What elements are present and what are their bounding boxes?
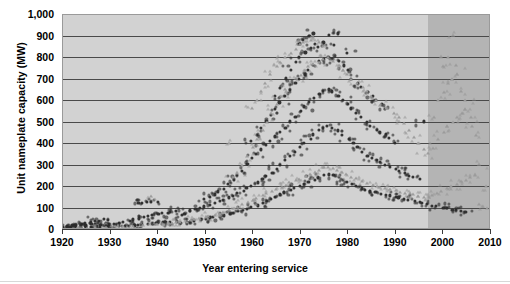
data-point bbox=[214, 219, 217, 222]
data-point bbox=[447, 35, 451, 38]
data-point bbox=[197, 209, 200, 212]
data-point bbox=[298, 111, 301, 114]
data-point bbox=[271, 95, 275, 98]
x-axis-tick-label: 1970 bbox=[288, 236, 311, 248]
data-point bbox=[367, 159, 370, 162]
data-point bbox=[463, 108, 467, 111]
data-point bbox=[391, 105, 395, 108]
data-point bbox=[328, 167, 332, 170]
gridline bbox=[62, 79, 490, 80]
data-point bbox=[371, 153, 374, 156]
data-point bbox=[301, 80, 305, 83]
data-point bbox=[342, 64, 345, 67]
data-point bbox=[309, 59, 313, 62]
data-point bbox=[385, 106, 389, 109]
data-point bbox=[333, 43, 336, 46]
data-point bbox=[309, 63, 313, 66]
data-point bbox=[295, 43, 299, 46]
data-point bbox=[416, 191, 420, 194]
x-axis-tick bbox=[395, 229, 396, 234]
data-point bbox=[309, 174, 313, 177]
y-axis-tick-label: 400 bbox=[36, 137, 54, 149]
data-point bbox=[464, 178, 468, 181]
data-point bbox=[286, 96, 290, 99]
data-point bbox=[293, 153, 296, 156]
data-point bbox=[445, 124, 449, 127]
data-point bbox=[188, 210, 191, 213]
data-point bbox=[465, 122, 469, 125]
data-point bbox=[317, 123, 320, 126]
data-point bbox=[340, 99, 343, 102]
data-point bbox=[111, 224, 115, 227]
data-point bbox=[475, 159, 479, 162]
data-point bbox=[223, 214, 226, 217]
data-point bbox=[343, 72, 347, 75]
data-point bbox=[388, 197, 391, 200]
data-point bbox=[275, 105, 278, 108]
data-point bbox=[349, 101, 352, 104]
data-point bbox=[378, 108, 381, 111]
data-point bbox=[439, 189, 443, 192]
data-point bbox=[211, 206, 214, 209]
data-point bbox=[231, 176, 235, 179]
data-point bbox=[321, 58, 325, 61]
data-point bbox=[432, 134, 436, 137]
x-axis-tick-label: 1960 bbox=[241, 236, 264, 248]
x-axis-tick bbox=[490, 229, 491, 234]
data-point bbox=[338, 65, 342, 68]
y-axis-tick-label: 0 bbox=[48, 223, 54, 235]
data-point bbox=[432, 192, 436, 195]
data-point bbox=[255, 143, 259, 146]
data-point bbox=[262, 124, 266, 127]
data-point bbox=[407, 195, 411, 198]
data-point bbox=[311, 109, 314, 112]
data-point bbox=[307, 101, 310, 104]
data-point bbox=[299, 145, 302, 148]
data-point bbox=[287, 102, 290, 105]
data-point bbox=[249, 185, 252, 188]
data-point bbox=[434, 146, 438, 149]
data-point bbox=[308, 69, 312, 72]
data-point bbox=[279, 193, 282, 196]
data-point bbox=[349, 68, 352, 71]
data-point bbox=[240, 197, 244, 200]
x-axis-tick bbox=[157, 229, 158, 234]
data-point bbox=[427, 195, 431, 198]
data-point bbox=[203, 211, 207, 214]
data-point bbox=[459, 87, 463, 90]
data-point bbox=[275, 102, 279, 105]
data-point bbox=[259, 92, 263, 95]
data-point bbox=[280, 186, 284, 189]
data-point bbox=[352, 148, 355, 151]
data-point bbox=[240, 202, 244, 205]
data-point bbox=[104, 222, 108, 225]
data-point bbox=[392, 133, 395, 136]
data-point bbox=[446, 55, 450, 58]
data-point bbox=[290, 68, 293, 71]
data-point bbox=[340, 133, 343, 136]
data-point bbox=[224, 174, 228, 177]
data-point bbox=[468, 108, 472, 111]
plot-area bbox=[62, 14, 490, 229]
data-point bbox=[170, 210, 173, 213]
data-point bbox=[477, 135, 481, 138]
data-point bbox=[316, 49, 319, 52]
data-point bbox=[438, 183, 442, 186]
data-point bbox=[288, 120, 291, 123]
data-point bbox=[257, 181, 260, 184]
data-point bbox=[263, 70, 267, 73]
data-point bbox=[485, 206, 489, 209]
data-point bbox=[427, 113, 431, 116]
data-point bbox=[281, 83, 285, 86]
data-point bbox=[267, 167, 270, 170]
x-axis-tick bbox=[347, 229, 348, 234]
data-point bbox=[379, 192, 382, 195]
data-point bbox=[313, 100, 316, 103]
data-point bbox=[402, 122, 406, 125]
data-point bbox=[355, 81, 359, 84]
data-point bbox=[379, 103, 383, 106]
data-point bbox=[266, 104, 270, 107]
data-point bbox=[378, 131, 381, 134]
data-point bbox=[418, 178, 421, 181]
data-point bbox=[367, 83, 371, 86]
